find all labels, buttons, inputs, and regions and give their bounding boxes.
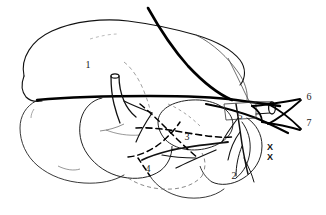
liver-upper-lobe-left-edge [22,76,42,101]
vessel-stomach-thin-branch [100,124,124,131]
lower-bowel-loop-outline [150,176,224,198]
liver-lower-lobe-inferior-crease [58,166,80,170]
artery-branch-c [236,146,242,176]
pancreatic-duct-tail-dashed [138,158,150,176]
liver-upper-lobe-outline [23,20,244,85]
liver-right-lobe-tip [228,58,252,105]
artery-branch-b [228,132,240,160]
liver-lower-lobe-notch [31,109,34,118]
duct-stump-left-wall [111,76,120,123]
vessel-fan-left-lower [176,150,216,168]
duct-stump-cut-opening [111,74,119,78]
pancreas-accessory-contour-dashed [168,104,200,126]
liver-lower-lobe-outline [20,101,124,183]
anatomical-figure: 1 2 3 4 5 6 7 X X [0,0,326,215]
vessel-fan-left-short [162,155,196,158]
hidden-structure-behind-stump [124,62,151,118]
liver-dome-crease [90,34,118,39]
falciform-division-line [148,8,232,100]
bile-duct-cylinder-lower-wall [256,113,270,114]
line-drawing-canvas [0,0,326,215]
main-horizontal-vessel [37,96,280,106]
stomach-inner-fold [106,130,140,135]
duodenum-outer-wall [212,118,262,184]
duodenum-superior-junction [200,166,212,182]
pancreatic-duct-main-dashed [136,128,232,137]
